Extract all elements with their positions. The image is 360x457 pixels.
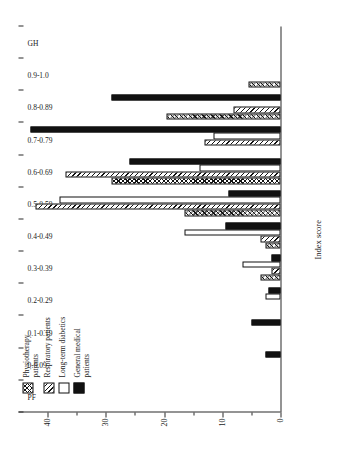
bar — [59, 197, 280, 203]
bar — [204, 139, 280, 145]
legend-swatch-resp — [43, 382, 54, 393]
value-tick-minor — [193, 412, 194, 415]
chart-legend: Physiotherapy patientsRespiratory patien… — [22, 315, 94, 393]
bar — [248, 81, 280, 87]
category-tick — [18, 154, 23, 155]
category-tick — [18, 186, 23, 187]
legend-swatch-genmed — [73, 382, 84, 393]
category-tick — [18, 122, 23, 123]
value-tick-label: 0 — [276, 418, 284, 438]
bar — [271, 254, 280, 260]
value-tick-label: 30 — [101, 418, 109, 438]
value-tick — [105, 412, 106, 417]
value-tick-label: 10 — [218, 418, 226, 438]
value-tick — [164, 412, 165, 417]
legend-swatch-diab — [58, 382, 69, 393]
bar — [265, 293, 280, 299]
bar — [271, 267, 280, 273]
category-tick-label: 0.2-0.29 — [27, 296, 52, 304]
value-tick-label: 40 — [43, 418, 51, 438]
rotated-figure-wrapper: 010203040 PF0-0.090.1-0.190.2-0.290.3-0.… — [0, 0, 360, 457]
legend-item-physio: Physiotherapy patients — [22, 315, 39, 393]
value-tick-minor — [76, 412, 77, 415]
value-tick — [280, 412, 281, 417]
bar — [260, 235, 280, 241]
category-tick-label: 0.3-0.39 — [27, 264, 52, 272]
bar — [129, 158, 280, 164]
bar — [228, 190, 280, 196]
legend-label-physio: Physiotherapy patients — [22, 315, 39, 377]
bar — [166, 113, 280, 119]
category-tick — [18, 25, 23, 26]
category-tick-label: GH — [27, 39, 38, 47]
bar — [251, 319, 280, 325]
bar — [233, 106, 280, 112]
bar — [65, 171, 280, 177]
value-tick — [47, 412, 48, 417]
bar — [225, 222, 280, 228]
category-tick — [18, 282, 23, 283]
bar — [265, 351, 280, 357]
value-tick-label: 20 — [160, 418, 168, 438]
x-axis-title: Index score — [312, 220, 322, 259]
category-tick — [18, 250, 23, 251]
legend-item-genmed: General medical patients — [73, 315, 90, 393]
category-tick-label: 0.6-0.69 — [27, 168, 52, 176]
legend-item-resp: Respiratory patients — [43, 315, 54, 393]
category-tick-label: 0.4-0.49 — [27, 232, 52, 240]
legend-label-resp: Respiratory patients — [43, 317, 52, 377]
bar — [260, 274, 280, 280]
category-tick — [18, 89, 23, 90]
bar — [30, 126, 280, 132]
legend-label-genmed: General medical patients — [73, 315, 90, 377]
legend-label-diab: Long-term diabetics — [58, 316, 67, 377]
bar — [268, 287, 280, 293]
value-tick-minor — [134, 412, 135, 415]
value-tick — [222, 412, 223, 417]
bar — [35, 203, 280, 209]
category-tick — [18, 411, 23, 412]
category-tick-label: PF — [27, 393, 35, 401]
legend-swatch-physio — [22, 382, 33, 393]
value-tick-minor — [251, 412, 252, 415]
category-tick-label: 0.8-0.89 — [27, 103, 52, 111]
bar — [199, 164, 281, 170]
bar — [242, 261, 280, 267]
category-tick — [18, 57, 23, 58]
category-tick — [18, 218, 23, 219]
bar-chart-figure: 010203040 PF0-0.090.1-0.190.2-0.290.3-0.… — [0, 0, 360, 457]
category-tick-label: 0.7-0.79 — [27, 136, 52, 144]
bar — [111, 177, 280, 183]
bar — [184, 229, 280, 235]
bar — [265, 242, 280, 248]
bar — [213, 132, 280, 138]
figure-canvas: 010203040 PF0-0.090.1-0.190.2-0.290.3-0.… — [0, 0, 360, 457]
bar — [111, 94, 280, 100]
bar — [184, 209, 280, 215]
category-tick-label: 0.9-1.0 — [27, 71, 48, 79]
legend-item-diab: Long-term diabetics — [58, 315, 69, 393]
value-axis-line — [18, 411, 280, 412]
